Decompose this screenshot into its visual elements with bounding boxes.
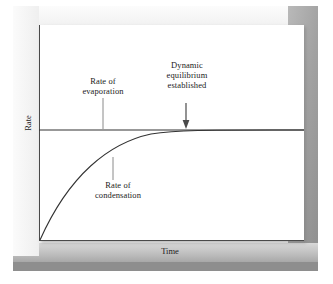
plot-curves bbox=[39, 25, 304, 241]
equilibrium-arrow-head bbox=[183, 120, 190, 129]
annotation-dynamic-equilibrium: Dynamic equilibrium established bbox=[150, 60, 224, 90]
x-axis-label: Time bbox=[130, 246, 210, 256]
figure-bottom-bar bbox=[13, 262, 318, 271]
annotation-rate-of-condensation: Rate of condensation bbox=[78, 180, 158, 200]
y-axis-label: Rate bbox=[23, 103, 33, 143]
figure-container: Rate of evaporation Dynamic equilibrium … bbox=[0, 0, 333, 284]
annotation-rate-of-evaporation: Rate of evaporation bbox=[66, 76, 140, 96]
